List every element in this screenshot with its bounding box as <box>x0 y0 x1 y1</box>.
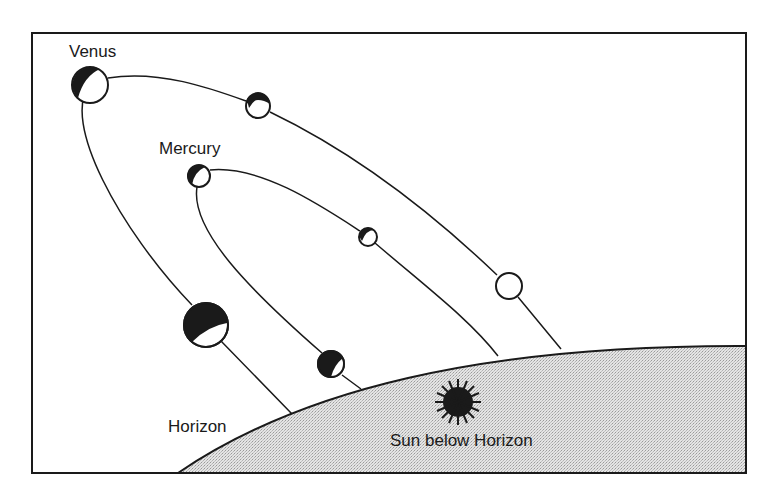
mercury-label: Mercury <box>159 139 221 158</box>
mercury-planet-2 <box>359 228 377 246</box>
venus-planet-1 <box>72 67 108 103</box>
sun-label: Sun below Horizon <box>390 431 533 450</box>
venus-planet-2 <box>246 92 270 118</box>
venus-planet-3 <box>496 273 522 299</box>
mercury-planet-3 <box>318 351 344 377</box>
venus-label: Venus <box>69 42 116 61</box>
horizon-label: Horizon <box>168 417 227 436</box>
venus-mercury-diagram: Venus Mercury Horizon Sun below Horizon <box>0 0 771 499</box>
mercury-planet-1 <box>187 165 210 187</box>
venus-planet-4 <box>184 303 228 347</box>
